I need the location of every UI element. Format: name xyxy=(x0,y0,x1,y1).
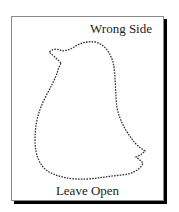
stitch-line-path xyxy=(35,42,145,179)
bird-pattern-outline xyxy=(0,0,179,212)
